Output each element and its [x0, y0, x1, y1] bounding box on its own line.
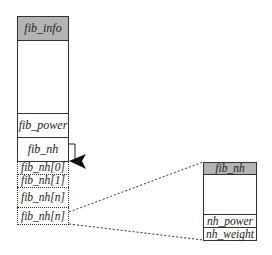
- dotted-connector-bottom: [69, 224, 203, 240]
- connectors-layer: [0, 0, 272, 255]
- fib-nh-pointer-arrow: [69, 144, 86, 169]
- arrowhead-icon: [69, 154, 86, 169]
- dotted-connector-top: [69, 162, 203, 212]
